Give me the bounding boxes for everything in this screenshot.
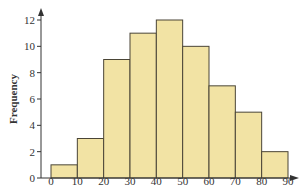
x-tick-label: 60 (204, 175, 216, 187)
y-tick-label: 12 (24, 14, 35, 26)
x-tick-label: 90 (283, 175, 295, 187)
y-tick-label: 2 (30, 146, 36, 158)
x-tick-label: 70 (230, 175, 242, 187)
y-axis-title: Frequency (7, 74, 19, 124)
y-axis-arrow-icon (38, 8, 44, 16)
histogram-bar (235, 112, 261, 178)
y-tick-label: 4 (30, 119, 36, 131)
y-tick-label: 8 (30, 67, 36, 79)
histogram-bar (156, 20, 182, 178)
histogram-bar (209, 86, 235, 178)
x-tick-label: 50 (177, 175, 189, 187)
y-tick-label: 0 (30, 172, 36, 184)
histogram-chart: 024681012 0102030405060708090 Frequency (0, 0, 301, 187)
histogram-bar (77, 139, 103, 179)
histogram-bars (51, 20, 288, 178)
x-tick-label: 30 (125, 175, 137, 187)
histogram-bar (130, 33, 156, 178)
y-tick-label: 6 (30, 93, 36, 105)
y-axis: 024681012 (24, 8, 44, 184)
histogram-bar (183, 46, 209, 178)
x-tick-label: 0 (48, 175, 54, 187)
x-tick-label: 80 (256, 175, 268, 187)
x-tick-label: 10 (72, 175, 84, 187)
y-tick-label: 10 (24, 40, 36, 52)
histogram-bar (104, 60, 130, 179)
x-tick-label: 40 (151, 175, 163, 187)
x-tick-label: 20 (98, 175, 110, 187)
